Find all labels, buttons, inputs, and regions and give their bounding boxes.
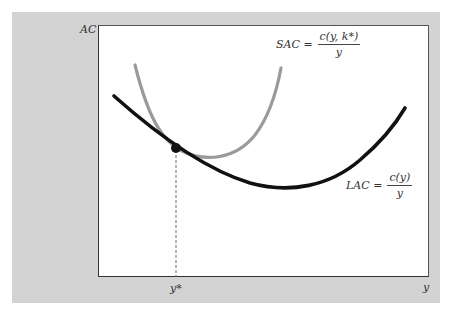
tangency-point — [171, 143, 181, 153]
lac-label: LAC = c(y) y — [346, 171, 412, 200]
sac-label-numerator: c(y, k*) — [318, 30, 361, 45]
x-tick-ystar: y* — [170, 282, 182, 295]
lac-label-denominator: y — [397, 186, 403, 200]
x-axis-label: y — [423, 281, 429, 294]
sac-label-denominator: y — [336, 45, 342, 59]
y-axis-label: AC — [80, 23, 96, 36]
chart-curves — [0, 0, 452, 312]
sac-label: SAC = c(y, k*) y — [276, 30, 360, 59]
sac-curve — [135, 65, 281, 157]
lac-label-lhs: LAC = — [346, 179, 382, 192]
lac-label-numerator: c(y) — [387, 171, 412, 186]
sac-label-lhs: SAC = — [276, 38, 313, 51]
